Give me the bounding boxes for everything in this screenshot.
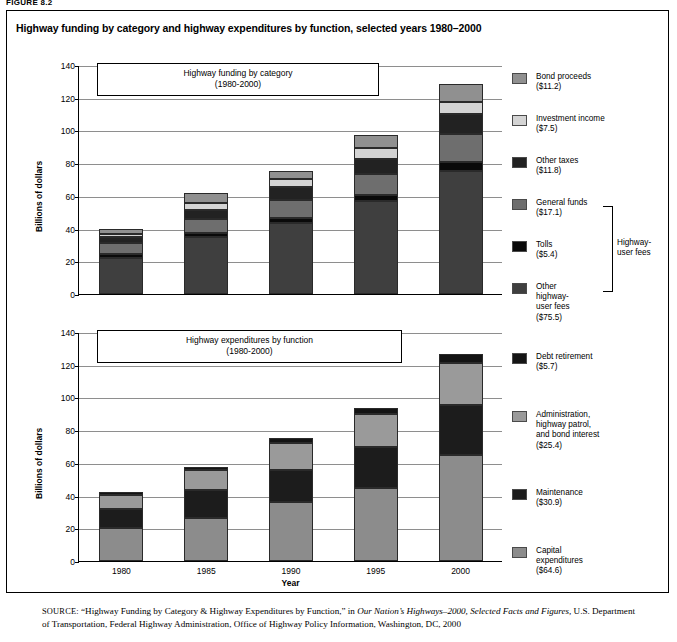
bar-segment [439, 405, 483, 456]
legend-label: Debt retirement ($5.7) [536, 352, 592, 372]
legend-item[interactable]: Other taxes ($11.8) [512, 156, 578, 176]
legend-item[interactable]: Investment income ($7.5) [512, 114, 605, 134]
bar-segment [439, 455, 483, 561]
inner-title-expenditures-line1: Highway expenditures by function [186, 335, 313, 345]
bar-segment [184, 467, 228, 470]
legend-label: Bond proceeds ($11.2) [536, 72, 591, 92]
legend-label: General funds ($17.1) [536, 198, 587, 218]
x-tick-label-1980: 1980 [112, 566, 131, 576]
bar-segment [269, 470, 313, 502]
y-tick-mark [75, 529, 79, 530]
y-tick-label: 100 [61, 393, 75, 403]
legend-swatch [512, 547, 527, 558]
x-tick-label-1995: 1995 [366, 566, 385, 576]
legend-label: Administration, highway patrol, and bond… [536, 410, 599, 451]
y-tick-mark [75, 562, 79, 563]
bar-segment [99, 528, 143, 561]
legend-label: Tolls ($5.4) [536, 240, 557, 260]
highway-user-fees-bracket [603, 206, 613, 292]
legend-swatch [512, 157, 527, 168]
bar-segment [269, 443, 313, 470]
legend-swatch [512, 115, 527, 126]
bar-segment [184, 518, 228, 561]
y-tick-mark [75, 497, 79, 498]
legend-label: Other highway- user fees ($75.5) [536, 282, 570, 323]
x-tick-label-2000: 2000 [451, 566, 470, 576]
legend-swatch [512, 411, 527, 422]
legend-item[interactable]: Capital expenditures ($64.6) [512, 546, 583, 577]
bar-segment [354, 488, 398, 561]
legend-item[interactable]: Other highway- user fees ($75.5) [512, 282, 570, 323]
bar-1995[interactable] [354, 408, 398, 561]
y-tick-label: 20 [66, 524, 75, 534]
y-tick-label: 80 [66, 426, 75, 436]
y-tick-label: 0 [70, 557, 75, 567]
bar-1980[interactable] [99, 492, 143, 561]
legend-item[interactable]: Bond proceeds ($11.2) [512, 72, 591, 92]
bar-2000[interactable] [439, 354, 483, 561]
y-tick-label: 60 [66, 459, 75, 469]
legend-swatch [512, 199, 527, 210]
x-tick-label-1990: 1990 [282, 566, 301, 576]
y-tick-label: 120 [61, 361, 75, 371]
inner-title-funding-line1: Highway funding by category [183, 68, 292, 78]
x-axis-label: Year [282, 578, 300, 588]
inner-title-expenditures: Highway expenditures by function (1980-2… [97, 330, 402, 363]
y-tick-mark [75, 333, 79, 334]
bar-segment [354, 408, 398, 414]
legend-item[interactable]: Administration, highway patrol, and bond… [512, 410, 599, 451]
bar-segment [99, 509, 143, 528]
legend-swatch [512, 73, 527, 84]
y-tick-mark [75, 366, 79, 367]
y-tick-label: 140 [61, 328, 75, 338]
bar-segment [354, 414, 398, 447]
legend-swatch [512, 353, 527, 364]
legend-label: Investment income ($7.5) [536, 114, 605, 134]
figure-page: FIGURE 8.2 Highway funding by category a… [0, 0, 677, 642]
bar-segment [269, 502, 313, 561]
bar-1990[interactable] [269, 438, 313, 561]
legend-swatch [512, 489, 527, 500]
bar-segment [269, 438, 313, 443]
x-tick-label-1985: 1985 [197, 566, 216, 576]
bar-segment [184, 490, 228, 518]
legend-swatch [512, 283, 527, 294]
legend-swatch [512, 241, 527, 252]
inner-title-funding-line2: (1980-2000) [215, 79, 261, 89]
source-note: SOURCE: “Highway Funding by Category & H… [42, 605, 642, 631]
source-prefix: SOURCE: [42, 607, 79, 616]
inner-title-funding: Highway funding by category (1980-2000) [97, 63, 379, 96]
bar-segment [439, 363, 483, 405]
bar-1985[interactable] [184, 467, 228, 561]
legend-item[interactable]: General funds ($17.1) [512, 198, 587, 218]
bar-segment [99, 492, 143, 494]
y-tick-mark [75, 398, 79, 399]
bar-segment [99, 495, 143, 509]
highway-user-fees-bracket-label: Highway- user fees [617, 238, 651, 258]
legend-label: Other taxes ($11.8) [536, 156, 578, 176]
y-axis-label-bottom: Billions of dollars [34, 428, 44, 499]
inner-title-expenditures-line2: (1980-2000) [226, 346, 272, 356]
source-quoted: “Highway Funding by Category & Highway E… [81, 606, 357, 616]
legend-label: Capital expenditures ($64.6) [536, 546, 583, 577]
bar-segment [439, 354, 483, 363]
legend-label: Maintenance ($30.9) [536, 488, 583, 508]
legend-item[interactable]: Debt retirement ($5.7) [512, 352, 592, 372]
legend-funding: Bond proceeds ($11.2)Investment income (… [512, 72, 662, 292]
y-tick-mark [75, 431, 79, 432]
legend-item[interactable]: Maintenance ($30.9) [512, 488, 583, 508]
y-tick-label: 40 [66, 492, 75, 502]
plot-area-expenditures: 02040608010012014019801985199019952000Ye… [78, 333, 502, 562]
legend-item[interactable]: Tolls ($5.4) [512, 240, 557, 260]
bar-segment [184, 470, 228, 490]
bar-segment [354, 447, 398, 488]
source-italic: Our Nation’s Highways–2000, Selected Fac… [357, 606, 571, 616]
legend-expenditures: Debt retirement ($5.7)Administration, hi… [512, 352, 662, 562]
y-tick-mark [75, 464, 79, 465]
